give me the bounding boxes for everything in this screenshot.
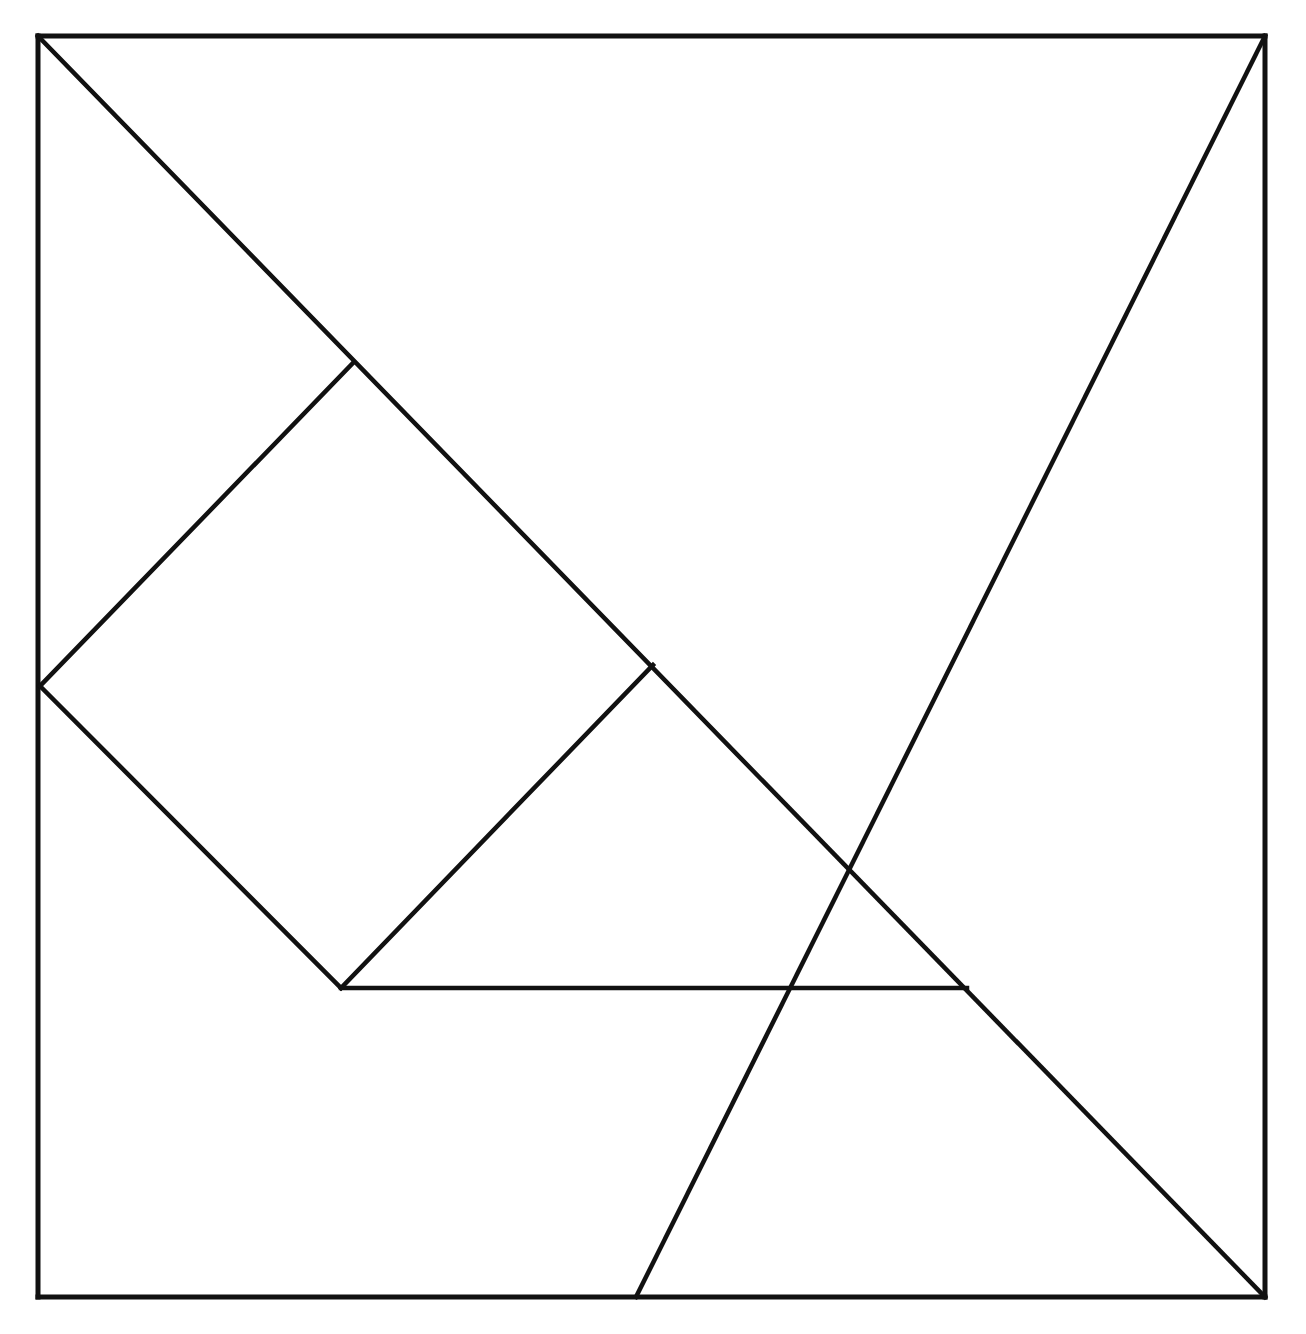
tangram-diagram <box>0 0 1306 1334</box>
tangram-figure-container <box>0 0 1306 1334</box>
